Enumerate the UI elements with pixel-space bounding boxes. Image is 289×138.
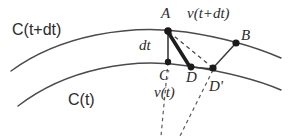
annotation-dt: dt — [139, 38, 151, 53]
segment-a-dprime — [169, 32, 212, 67]
curve-lower-label: C(t) — [68, 92, 95, 108]
curve-lower-ct — [18, 63, 281, 106]
segment-dprime-b — [213, 43, 236, 68]
annotation-v-t: v(t) — [154, 85, 175, 100]
point-c-marker — [165, 59, 171, 65]
segment-a-d — [168, 32, 190, 67]
annotation-v-t-plus-dt: v(t+dt) — [187, 6, 230, 21]
point-b-marker — [232, 39, 239, 46]
point-label-b: B — [241, 28, 250, 43]
point-label-d: D — [186, 70, 197, 85]
point-label-a: A — [161, 6, 170, 21]
point-dprime-marker — [209, 64, 216, 71]
point-label-c: C — [159, 68, 169, 83]
geometry-figure: C(t+dt) C(t) A B C D D' dt v(t+dt) v(t) — [0, 0, 289, 138]
point-label-dprime: D' — [209, 79, 223, 94]
point-a-marker — [164, 27, 172, 35]
curve-upper-label: C(t+dt) — [12, 22, 61, 38]
